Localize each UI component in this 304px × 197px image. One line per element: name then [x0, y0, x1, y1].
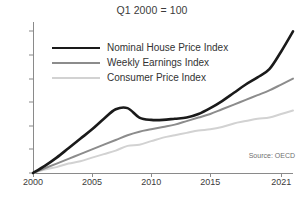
x-tick-mark: [210, 173, 211, 177]
chart-container: Q1 2000 = 100 100120140160180200220 2000…: [0, 0, 304, 197]
x-tick-label: 2005: [82, 177, 102, 187]
chart-legend: Nominal House Price IndexWeekly Earnings…: [52, 40, 228, 85]
x-tick-mark: [151, 173, 152, 177]
chart-subtitle: Q1 2000 = 100: [0, 4, 304, 16]
x-tick-label: 2000: [23, 177, 43, 187]
legend-item-label: Weekly Earnings Index: [107, 57, 209, 68]
legend-swatch-icon: [52, 77, 100, 79]
legend-swatch-icon: [52, 62, 100, 64]
legend-item-label: Nominal House Price Index: [107, 42, 228, 53]
legend-item-label: Consumer Price Index: [107, 72, 206, 83]
legend-swatch-icon: [52, 47, 100, 49]
x-tick-label: 2015: [200, 177, 220, 187]
x-tick-mark: [92, 173, 93, 177]
chart-title: [0, 0, 304, 3]
x-tick-label: 2021: [271, 177, 291, 187]
source-note: Source: OECD: [249, 152, 295, 159]
legend-item[interactable]: Weekly Earnings Index: [52, 55, 228, 70]
x-tick-label: 2010: [141, 177, 161, 187]
legend-item[interactable]: Consumer Price Index: [52, 70, 228, 85]
x-axis-line: [33, 173, 293, 174]
x-tick-mark: [281, 173, 282, 177]
legend-item[interactable]: Nominal House Price Index: [52, 40, 228, 55]
